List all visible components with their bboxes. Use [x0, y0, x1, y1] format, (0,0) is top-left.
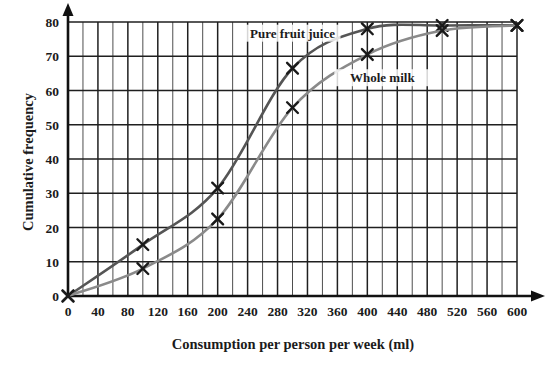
x-tick-label: 400 — [357, 304, 378, 319]
x-tick-label: 160 — [178, 304, 199, 319]
cumulative-frequency-chart: 0408012016020024028032036040044048052056… — [0, 0, 557, 366]
x-axis-title: Consumption per person per week (ml) — [172, 336, 415, 353]
y-tick-label: 70 — [46, 49, 60, 64]
x-tick-label: 560 — [477, 304, 498, 319]
y-axis-tick-labels: 01020304050607080 — [46, 15, 60, 304]
y-axis-title: Cumulative frequency — [20, 92, 36, 231]
x-tick-label: 600 — [507, 304, 528, 319]
x-tick-label: 440 — [387, 304, 408, 319]
x-tick-label: 320 — [297, 304, 318, 319]
chart-canvas: 0408012016020024028032036040044048052056… — [0, 0, 557, 366]
x-tick-label: 120 — [148, 304, 169, 319]
y-tick-label: 0 — [52, 289, 59, 304]
x-tick-label: 480 — [417, 304, 438, 319]
x-tick-label: 520 — [447, 304, 468, 319]
x-tick-label: 240 — [237, 304, 258, 319]
y-tick-label: 20 — [46, 221, 60, 236]
x-tick-label: 80 — [121, 304, 135, 319]
x-tick-label: 0 — [65, 304, 72, 319]
x-tick-label: 280 — [267, 304, 288, 319]
x-tick-label: 360 — [327, 304, 348, 319]
y-tick-label: 80 — [46, 15, 60, 30]
y-tick-label: 10 — [46, 255, 60, 270]
y-tick-label: 30 — [46, 186, 60, 201]
x-tick-label: 40 — [91, 304, 105, 319]
y-tick-label: 40 — [46, 152, 60, 167]
annotation-pure-fruit-juice: Pure fruit juice — [250, 26, 335, 41]
y-tick-label: 50 — [46, 118, 60, 133]
x-tick-label: 200 — [208, 304, 229, 319]
y-tick-label: 60 — [46, 84, 60, 99]
annotation-whole-milk: Whole milk — [350, 70, 415, 85]
